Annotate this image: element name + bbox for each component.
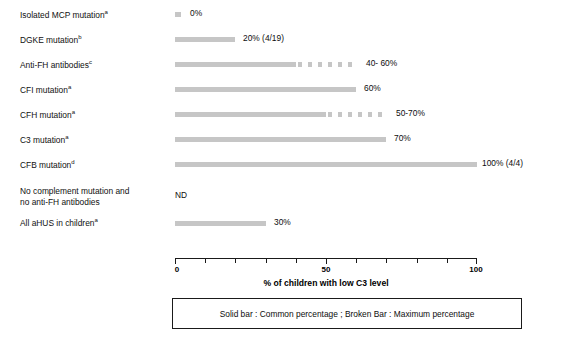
bar-c3-mutation xyxy=(175,137,386,142)
bar-value-cfb-mutation: 100% (4/4) xyxy=(482,158,523,168)
category-label-text: Anti-FH antibodies xyxy=(20,60,89,70)
category-label-cfh-mutation: CFH mutationa xyxy=(20,110,170,121)
axis-tick-70 xyxy=(386,258,387,263)
chart-figure: Isolated MCP mutationa DGKE mutationb An… xyxy=(0,0,565,351)
legend-box: Solid bar : Common percentage ; Broken B… xyxy=(172,298,522,329)
axis-tick-label-50: 50 xyxy=(322,265,331,274)
bar-value-cfh-mutation: 50-70% xyxy=(396,108,425,118)
category-label-dgke-mutation: DGKE mutationb xyxy=(20,35,170,46)
bar-isolated-mcp-mutation xyxy=(175,12,181,17)
bar-broken-anti-fh-antibodies xyxy=(298,62,358,67)
axis-tick-50 xyxy=(326,258,327,264)
bar-dgke-mutation xyxy=(175,37,235,42)
x-axis-line xyxy=(175,258,477,259)
bar-broken-cfh-mutation xyxy=(328,112,388,117)
bar-value-c3-mutation: 70% xyxy=(394,133,411,143)
footnote-marker: a xyxy=(65,134,68,140)
category-label-isolated-mcp-mutation: Isolated MCP mutationa xyxy=(20,10,170,21)
axis-tick-30 xyxy=(266,258,267,263)
axis-tick-0 xyxy=(175,258,176,264)
axis-tick-label-100: 100 xyxy=(469,265,482,274)
axis-tick-10 xyxy=(205,258,206,263)
bar-cfh-mutation xyxy=(175,112,326,117)
category-label-text-line2: no anti-FH antibodies xyxy=(20,197,100,207)
footnote-marker: a xyxy=(72,109,75,115)
category-label-text: All aHUS in children xyxy=(20,218,94,228)
category-label-text: Isolated MCP mutation xyxy=(20,10,105,20)
category-label-c3-mutation: C3 mutationa xyxy=(20,135,170,146)
axis-tick-90 xyxy=(447,258,448,263)
bar-anti-fh-antibodies xyxy=(175,62,296,67)
category-label-text: CFH mutation xyxy=(20,110,72,120)
category-label-text: DGKE mutation xyxy=(20,35,78,45)
footnote-marker: a xyxy=(105,9,108,15)
category-label-text: CFB mutation xyxy=(20,160,71,170)
legend-text: Solid bar : Common percentage ; Broken B… xyxy=(220,309,475,319)
category-label-cfi-mutation: CFI mutationa xyxy=(20,85,170,96)
axis-tick-40 xyxy=(296,258,297,263)
bar-value-anti-fh-antibodies: 40- 60% xyxy=(366,58,397,68)
axis-tick-label-0: 0 xyxy=(175,265,179,274)
footnote-marker: a xyxy=(94,217,97,223)
axis-tick-80 xyxy=(417,258,418,263)
category-label-text-line1: No complement mutation and xyxy=(20,186,129,196)
category-label-all-ahus-in-children: All aHUS in childrena xyxy=(20,218,170,229)
category-label-text: C3 mutation xyxy=(20,135,65,145)
category-label-anti-fh-antibodies: Anti-FH antibodiesc xyxy=(20,60,170,71)
category-label-cfb-mutation: CFB mutationd xyxy=(20,160,170,171)
bar-value-all-ahus-in-children: 30% xyxy=(274,217,291,227)
axis-tick-60 xyxy=(356,258,357,263)
x-axis-title: % of children with low C3 level xyxy=(175,278,477,288)
footnote-marker: a xyxy=(68,84,71,90)
bar-all-ahus-in-children xyxy=(175,221,266,226)
bar-cfb-mutation xyxy=(175,162,477,167)
category-label-text: CFI mutation xyxy=(20,85,68,95)
bar-value-dgke-mutation: 20% (4/19) xyxy=(243,33,284,43)
bar-value-isolated-mcp-mutation: 0% xyxy=(190,8,202,18)
footnote-marker: b xyxy=(78,34,81,40)
bar-value-no-complement-mutation: ND xyxy=(175,190,187,200)
footnote-marker: d xyxy=(71,159,74,165)
axis-tick-100 xyxy=(476,258,477,264)
bar-value-cfi-mutation: 60% xyxy=(364,83,381,93)
bar-cfi-mutation xyxy=(175,87,356,92)
footnote-marker: c xyxy=(89,59,92,65)
axis-tick-20 xyxy=(235,258,236,263)
category-label-no-complement-mutation: No complement mutation andno anti-FH ant… xyxy=(20,186,170,207)
